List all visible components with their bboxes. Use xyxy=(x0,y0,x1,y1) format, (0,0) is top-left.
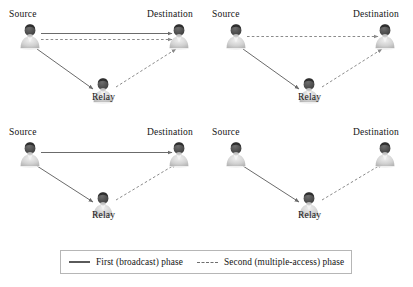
link-relay-destination-second xyxy=(116,49,176,87)
label-source: Source xyxy=(9,9,37,20)
label-source: Source xyxy=(212,9,240,20)
link-source-relay-first xyxy=(243,166,299,202)
link-source-relay-first xyxy=(243,49,299,89)
panel-bottom-left xyxy=(20,142,189,218)
dashed-line-swatch-icon xyxy=(197,262,218,263)
destination-person-icon xyxy=(169,24,189,50)
legend-entry-first-phase: First (broadcast) phase xyxy=(69,257,183,267)
link-relay-destination-second xyxy=(322,49,382,87)
label-relay: Relay xyxy=(92,92,115,103)
legend-entry-second-phase: Second (multiple-access) phase xyxy=(197,257,344,267)
panel-bottom-right xyxy=(226,142,395,218)
label-destination: Destination xyxy=(353,127,399,138)
destination-person-icon xyxy=(169,142,189,168)
source-person-icon xyxy=(226,24,246,50)
legend-label-second-phase: Second (multiple-access) phase xyxy=(224,257,344,267)
label-source: Source xyxy=(9,127,37,138)
relay-diagram-figure: Source Relay Destination Source Relay De… xyxy=(0,0,413,287)
label-relay: Relay xyxy=(92,210,115,221)
legend-label-first-phase: First (broadcast) phase xyxy=(96,257,183,267)
destination-person-icon xyxy=(375,142,395,168)
label-relay: Relay xyxy=(298,210,321,221)
source-person-icon xyxy=(20,142,40,168)
link-relay-destination-second xyxy=(116,164,176,200)
link-source-relay-first xyxy=(37,166,93,202)
label-destination: Destination xyxy=(147,127,193,138)
label-destination: Destination xyxy=(147,9,193,20)
label-destination: Destination xyxy=(353,9,399,20)
label-source: Source xyxy=(212,127,240,138)
link-source-relay-first xyxy=(37,49,93,89)
source-person-icon xyxy=(226,142,246,168)
label-relay: Relay xyxy=(298,92,321,103)
diagram-canvas xyxy=(0,0,413,287)
source-person-icon xyxy=(20,24,40,50)
solid-line-swatch-icon xyxy=(69,261,90,262)
link-relay-destination-second xyxy=(322,164,382,200)
legend: First (broadcast) phase Second (multiple… xyxy=(60,250,352,274)
